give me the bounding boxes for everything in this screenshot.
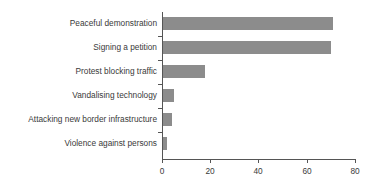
x-axis-tick (307, 159, 308, 163)
bar-row: Attacking new border infrastructure (162, 108, 355, 132)
x-axis-tick-label: 0 (160, 166, 165, 176)
category-label: Violence against persons (64, 135, 157, 151)
category-label: Peaceful demonstration (70, 15, 157, 31)
x-axis-tick (162, 159, 163, 163)
category-label: Signing a petition (93, 39, 157, 55)
x-axis-tick-label: 40 (253, 166, 262, 176)
bar-row: Protest blocking traffic (162, 60, 355, 84)
category-label: Protest blocking traffic (76, 63, 157, 79)
x-axis-line (162, 159, 356, 160)
bar-chart: Peaceful demonstration Signing a petitio… (0, 0, 369, 189)
bar (162, 113, 172, 126)
x-axis-tick-label: 60 (302, 166, 311, 176)
bar-row: Violence against persons (162, 132, 355, 156)
bar (162, 89, 174, 102)
y-axis-line (162, 12, 163, 160)
bar (162, 17, 333, 30)
bar-row: Peaceful demonstration (162, 12, 355, 36)
bar-row: Signing a petition (162, 36, 355, 60)
x-axis-tick (355, 159, 356, 163)
x-axis-tick-label: 20 (205, 166, 214, 176)
plot-area: Peaceful demonstration Signing a petitio… (162, 12, 355, 159)
bar (162, 65, 205, 78)
bar-row: Vandalising technology (162, 84, 355, 108)
category-label: Attacking new border infrastructure (28, 111, 157, 127)
x-axis-tick (258, 159, 259, 163)
x-axis-tick (210, 159, 211, 163)
x-axis-tick-label: 80 (350, 166, 359, 176)
category-label: Vandalising technology (72, 87, 157, 103)
bar (162, 41, 331, 54)
